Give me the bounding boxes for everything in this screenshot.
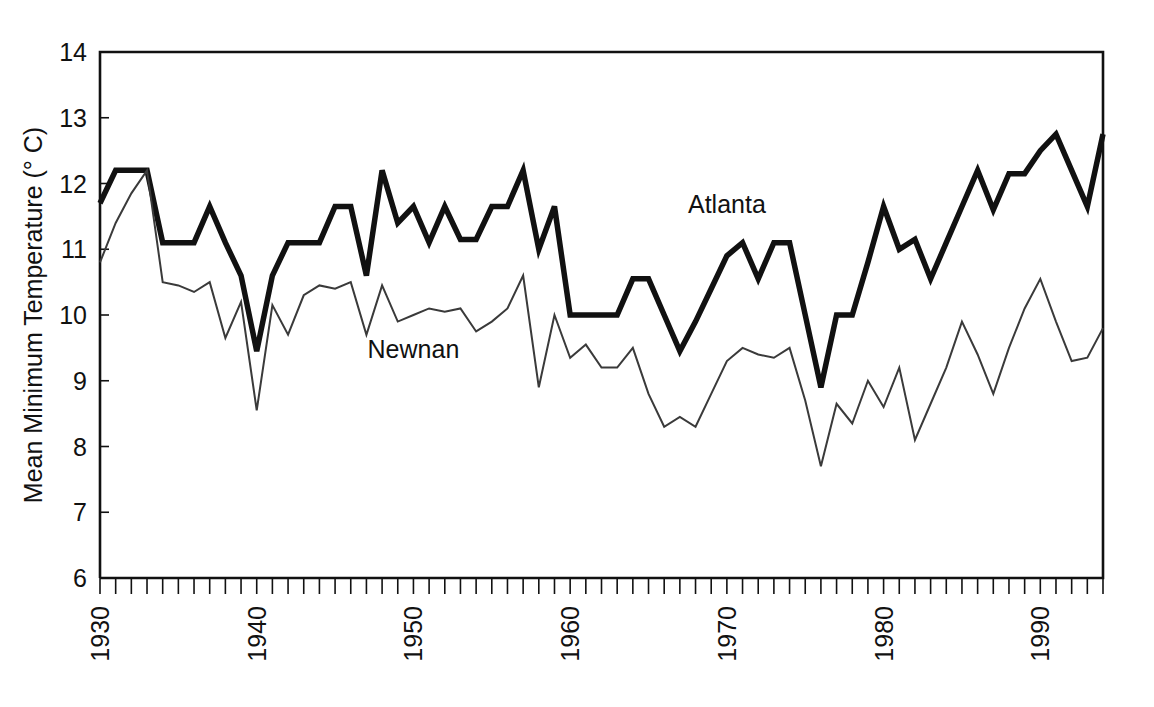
x-tick-label-group: 1980 xyxy=(870,606,898,662)
x-tick-label-group: 1990 xyxy=(1026,606,1054,662)
y-axis-title-group: Mean Minimum Temperature (° C) xyxy=(19,127,47,503)
x-tick-label-group: 1950 xyxy=(399,606,427,662)
x-tick-label: 1930 xyxy=(86,606,114,662)
x-tick-label-group: 1970 xyxy=(713,606,741,662)
y-tick-label: 13 xyxy=(59,104,87,132)
x-tick-label-group: 1960 xyxy=(556,606,584,662)
x-axis-tick-labels: 1930194019501960197019801990 xyxy=(86,606,1054,662)
line-chart: 67891011121314 1930194019501960197019801… xyxy=(0,0,1154,707)
y-tick-label: 10 xyxy=(59,301,87,329)
y-tick-label: 12 xyxy=(59,170,87,198)
chart-container: 67891011121314 1930194019501960197019801… xyxy=(0,0,1154,707)
series-label-atlanta: Atlanta xyxy=(688,190,766,218)
x-tick-label: 1970 xyxy=(713,606,741,662)
y-axis-ticks xyxy=(100,52,109,578)
x-tick-label-group: 1940 xyxy=(243,606,271,662)
y-axis-title-text: Mean Minimum Temperature (° C) xyxy=(19,127,47,503)
x-axis-ticks xyxy=(100,578,1103,594)
x-tick-label: 1990 xyxy=(1026,606,1054,662)
y-tick-label: 7 xyxy=(73,498,87,526)
y-axis-title: Mean Minimum Temperature (° C) xyxy=(19,127,47,503)
y-tick-label: 9 xyxy=(73,367,87,395)
y-axis-tick-labels: 67891011121314 xyxy=(59,38,87,592)
y-tick-label: 8 xyxy=(73,433,87,461)
x-tick-label: 1960 xyxy=(556,606,584,662)
x-tick-label: 1940 xyxy=(243,606,271,662)
x-tick-label: 1950 xyxy=(399,606,427,662)
y-tick-label: 11 xyxy=(61,235,87,263)
x-tick-label-group: 1930 xyxy=(86,606,114,662)
data-series-group xyxy=(100,134,1103,466)
series-label-newnan: Newnan xyxy=(368,335,460,363)
y-tick-label: 14 xyxy=(59,38,87,66)
x-tick-label: 1980 xyxy=(870,606,898,662)
y-tick-label: 6 xyxy=(73,564,87,592)
